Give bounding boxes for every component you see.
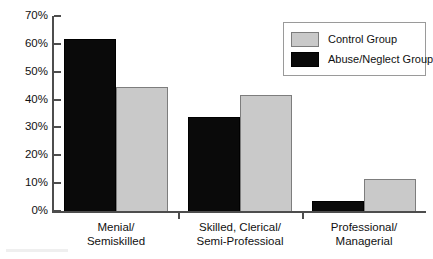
x-axis-label-line: Skilled, Clerical/ — [178, 220, 302, 234]
y-axis-tick-label: 0% — [4, 205, 48, 217]
x-axis-separator — [178, 213, 180, 219]
x-axis-category-label: Skilled, Clerical/Semi-Professioal — [178, 220, 302, 248]
y-axis-tick-label: 30% — [4, 121, 48, 133]
x-axis-label-line: Semi-Professioal — [178, 234, 302, 248]
y-axis-tick-label: 50% — [4, 66, 48, 78]
x-axis-category-label: Professional/Managerial — [302, 220, 426, 248]
legend-label-abuse-neglect-group: Abuse/Neglect Group — [328, 53, 433, 65]
y-axis-tick-label: 60% — [4, 38, 48, 50]
bar — [116, 87, 168, 212]
chart-legend: Control Group Abuse/Neglect Group — [283, 22, 426, 76]
bar — [188, 117, 240, 212]
x-axis-label-line: Managerial — [302, 234, 426, 248]
x-axis-label-line: Semiskilled — [54, 234, 178, 248]
bar — [240, 95, 292, 212]
x-axis-separator — [302, 213, 304, 219]
legend-item-abuse-neglect-group: Abuse/Neglect Group — [291, 49, 418, 69]
legend-swatch-control-group — [291, 32, 319, 47]
bar — [64, 39, 116, 212]
y-axis-tick-label: 40% — [4, 94, 48, 106]
bar — [364, 179, 416, 212]
x-axis-category-label: Menial/Semiskilled — [54, 220, 178, 248]
legend-swatch-abuse-neglect-group — [291, 52, 319, 67]
x-axis-label-line: Professional/ — [302, 220, 426, 234]
y-axis-tick-label: 10% — [4, 177, 48, 189]
y-axis-tick-label: 20% — [4, 149, 48, 161]
legend-item-control-group: Control Group — [291, 29, 418, 49]
legend-label-control-group: Control Group — [328, 33, 397, 45]
page-artifact — [6, 249, 68, 252]
x-axis-line — [52, 211, 426, 213]
y-axis-tick-label: 70% — [4, 10, 48, 22]
x-axis-label-line: Menial/ — [54, 220, 178, 234]
